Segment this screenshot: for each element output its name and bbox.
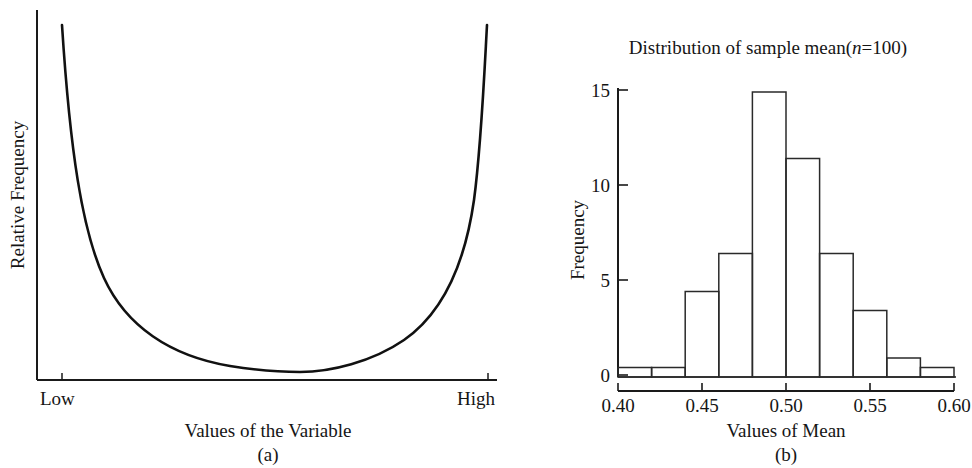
histogram-bar-5 bbox=[752, 92, 786, 377]
panel-b-xtick-label-045: 0.45 bbox=[685, 395, 718, 416]
histogram-bar-9 bbox=[887, 358, 921, 377]
panel-b-bars bbox=[618, 92, 954, 377]
panel-b-xtick-label-055: 0.55 bbox=[853, 395, 886, 416]
panel-a-xtick-label-high: High bbox=[457, 388, 496, 409]
panel-b-xlabel: Values of Mean bbox=[726, 420, 846, 441]
panel-b-title: Distribution of sample mean(n=100) bbox=[629, 37, 907, 59]
panel-b-title-prefix: Distribution of sample mean( bbox=[629, 37, 852, 59]
figure-container: Relative Frequency Low High Values of th… bbox=[0, 0, 972, 468]
panel-b-ytick-label-15: 15 bbox=[591, 80, 610, 101]
panel-a-svg: Relative Frequency Low High Values of th… bbox=[0, 0, 560, 468]
histogram-bar-2 bbox=[652, 368, 686, 378]
panel-a-caption: (a) bbox=[257, 444, 278, 466]
histogram-bar-6 bbox=[786, 159, 820, 378]
panel-a-xtick-label-low: Low bbox=[40, 388, 75, 409]
histogram-bar-3 bbox=[685, 292, 719, 378]
panel-b: Distribution of sample mean(n=100) 15 10… bbox=[560, 0, 972, 468]
panel-b-title-italic-n: n bbox=[852, 37, 862, 58]
panel-a-ylabel: Relative Frequency bbox=[7, 120, 28, 269]
panel-b-ylabel: Frequency bbox=[567, 199, 588, 280]
histogram-bar-7 bbox=[820, 254, 854, 378]
panel-b-ytick-label-10: 10 bbox=[591, 175, 610, 196]
panel-a: Relative Frequency Low High Values of th… bbox=[0, 0, 560, 468]
histogram-bar-4 bbox=[719, 254, 753, 378]
panel-b-ytick-label-0: 0 bbox=[601, 365, 611, 386]
histogram-bar-8 bbox=[853, 311, 887, 378]
panel-b-xtick-label-040: 0.40 bbox=[601, 395, 634, 416]
panel-b-title-suffix: =100) bbox=[862, 37, 908, 59]
panel-a-xlabel: Values of the Variable bbox=[185, 420, 352, 441]
panel-b-ytick-label-5: 5 bbox=[601, 270, 611, 291]
panel-b-xtick-label-060: 0.60 bbox=[937, 395, 970, 416]
panel-b-svg: Distribution of sample mean(n=100) 15 10… bbox=[560, 0, 972, 468]
panel-b-caption: (b) bbox=[775, 444, 797, 466]
histogram-bar-10 bbox=[920, 368, 954, 378]
panel-b-xtick-label-050: 0.50 bbox=[769, 395, 802, 416]
panel-a-curve bbox=[62, 25, 487, 372]
